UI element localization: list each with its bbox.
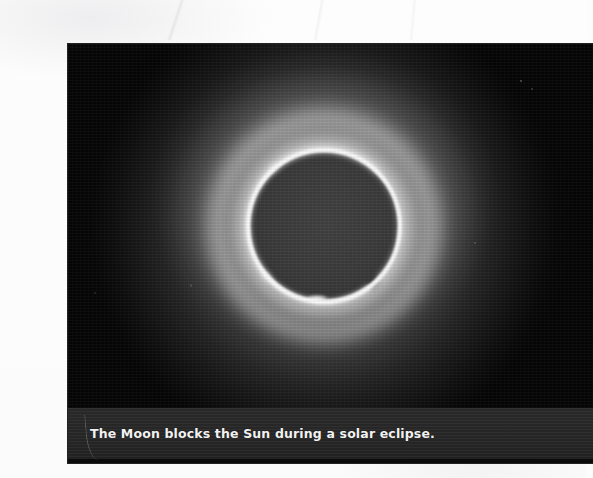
figure-caption-bar: The Moon blocks the Sun during a solar e… bbox=[68, 408, 593, 459]
figure-caption-text: The Moon blocks the Sun during a solar e… bbox=[90, 426, 435, 441]
caption-bottom-strip bbox=[68, 459, 593, 463]
eclipse-photograph: The Moon blocks the Sun during a solar e… bbox=[68, 44, 593, 463]
baily-bead bbox=[306, 295, 328, 302]
eclipse-ring bbox=[246, 148, 402, 304]
